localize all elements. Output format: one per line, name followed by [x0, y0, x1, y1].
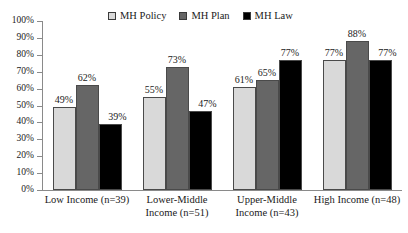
- bar: [76, 85, 99, 190]
- y-axis-tick-label: 70%: [17, 67, 34, 77]
- legend-label: MH Law: [255, 11, 293, 22]
- bar-group: 55%73%47%: [132, 21, 222, 190]
- y-axis-tick-label: 60%: [17, 84, 34, 94]
- y-axis-tick-label: 50%: [17, 101, 34, 111]
- bar-value-label: 62%: [74, 73, 100, 83]
- bar-value-label: 65%: [254, 68, 280, 78]
- bar: [166, 67, 189, 190]
- x-axis-line: [42, 190, 402, 191]
- bar-value-label: 77%: [277, 48, 303, 58]
- legend-label: MH Policy: [120, 11, 166, 22]
- bar-value-label: 73%: [164, 55, 190, 65]
- legend-swatch-icon: [108, 12, 116, 20]
- bar-group: 77%88%77%: [312, 21, 402, 190]
- bar-value-label: 77%: [321, 48, 347, 58]
- y-axis-tick-label: 80%: [17, 50, 34, 60]
- y-axis-tick-label: 20%: [17, 151, 34, 161]
- y-axis-tick-label: 40%: [17, 117, 34, 127]
- bar-value-label: 47%: [195, 99, 221, 109]
- bar-value-label: 49%: [51, 95, 77, 105]
- x-axis-category-label: High Income (n=48): [303, 194, 408, 207]
- bar-value-label: 77%: [375, 48, 401, 58]
- bar-value-label: 55%: [141, 85, 167, 95]
- bar: [346, 41, 369, 190]
- bar: [323, 60, 346, 190]
- plot-area: 49%62%39%55%73%47%61%65%77%77%88%77%: [42, 21, 402, 190]
- bar-value-label: 88%: [344, 29, 370, 39]
- legend-swatch-icon: [243, 12, 251, 20]
- bar: [233, 87, 256, 190]
- legend-entry: MH Plan: [179, 11, 229, 22]
- bar: [143, 97, 166, 190]
- y-axis-tick-label: 100%: [12, 16, 34, 26]
- bar: [99, 124, 122, 190]
- bar-chart: MH PolicyMH PlanMH Law 100%90%80%70%60%5…: [0, 0, 408, 233]
- y-axis-tick-label: 90%: [17, 33, 34, 43]
- y-axis-tick-label: 30%: [17, 134, 34, 144]
- bar: [189, 111, 212, 190]
- legend-entry: MH Law: [243, 11, 293, 22]
- category-label-line: High Income (n=48): [303, 194, 408, 207]
- bar: [279, 60, 302, 190]
- legend-entry: MH Policy: [108, 11, 166, 22]
- bar: [369, 60, 392, 190]
- bar-value-label: 39%: [105, 112, 131, 122]
- legend-label: MH Plan: [191, 11, 229, 22]
- bar-group: 49%62%39%: [42, 21, 132, 190]
- bar: [256, 80, 279, 190]
- category-label-line: Income (n=43): [213, 207, 321, 220]
- y-axis-tick: [37, 190, 42, 191]
- legend-swatch-icon: [179, 12, 187, 20]
- bar-group: 61%65%77%: [222, 21, 312, 190]
- bar: [53, 107, 76, 190]
- y-axis-tick-label: 10%: [17, 168, 34, 178]
